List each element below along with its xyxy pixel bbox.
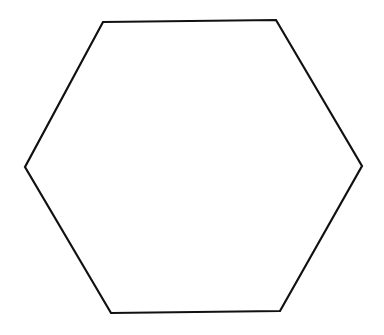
diagram-canvas [0, 0, 384, 335]
hexagon-diagram [0, 0, 384, 335]
hexagon-outline [25, 20, 362, 313]
